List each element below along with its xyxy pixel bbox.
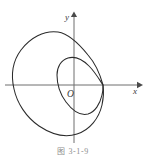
x-axis-label: x bbox=[132, 86, 137, 96]
figure-canvas: x y O bbox=[0, 0, 146, 160]
origin-label: O bbox=[67, 89, 74, 99]
x-axis-arrowhead-icon bbox=[137, 82, 143, 88]
polar-curve-figure: x y O 图 3-1-9 bbox=[0, 0, 146, 160]
figure-caption: 图 3-1-9 bbox=[0, 145, 146, 156]
y-axis-arrowhead-icon bbox=[71, 12, 77, 18]
y-axis-label: y bbox=[64, 12, 69, 22]
